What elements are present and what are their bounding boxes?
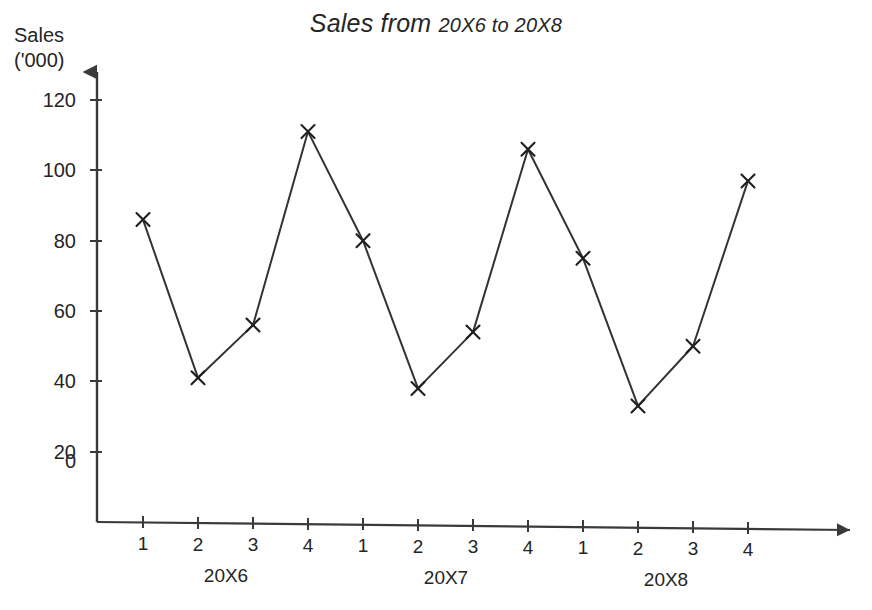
y-tick-label-100: 100 xyxy=(14,159,76,182)
y-tick-label-60: 60 xyxy=(14,300,76,323)
x-tick-label-12: 4 xyxy=(728,539,768,561)
x-tick-label-7: 3 xyxy=(453,536,493,558)
plot-area xyxy=(0,0,872,610)
data-point-marker xyxy=(192,371,205,384)
data-point-marker xyxy=(412,382,425,395)
data-point-marker xyxy=(577,252,590,265)
data-point-marker xyxy=(742,174,755,187)
x-tick-label-10: 2 xyxy=(618,538,658,560)
x-tick-label-1: 1 xyxy=(123,533,163,555)
x-tick-label-8: 4 xyxy=(508,537,548,559)
x-tick-label-11: 3 xyxy=(673,538,713,560)
x-group-label-20x7: 20X7 xyxy=(381,567,511,589)
y-tick-label-80: 80 xyxy=(14,230,76,253)
y-tick-label-120: 120 xyxy=(14,89,76,112)
x-tick-label-4: 4 xyxy=(288,535,328,557)
x-tick-label-3: 3 xyxy=(233,534,273,556)
x-group-label-20x6: 20X6 xyxy=(161,565,291,587)
x-group-label-20x8: 20X8 xyxy=(601,569,731,591)
data-point-marker xyxy=(632,399,645,412)
data-point-marker xyxy=(302,125,315,138)
data-point-marker xyxy=(522,143,535,156)
data-point-marker xyxy=(247,319,260,332)
data-point-marker xyxy=(137,213,150,226)
line-chart: Sales from 20X6 to 20X8 Sales ('000) xyxy=(0,0,872,610)
x-tick-label-6: 2 xyxy=(398,536,438,558)
data-point-marker xyxy=(687,340,700,353)
y-tick-label-40: 40 xyxy=(14,370,76,393)
data-point-markers xyxy=(137,125,755,412)
x-tick-label-9: 1 xyxy=(563,537,603,559)
x-tick-label-5: 1 xyxy=(343,535,383,557)
data-series-line xyxy=(143,132,748,406)
data-point-marker xyxy=(467,326,480,339)
y-tick-label-20: 20 xyxy=(14,441,76,464)
data-point-marker xyxy=(357,234,370,247)
x-tick-label-2: 2 xyxy=(178,534,218,556)
